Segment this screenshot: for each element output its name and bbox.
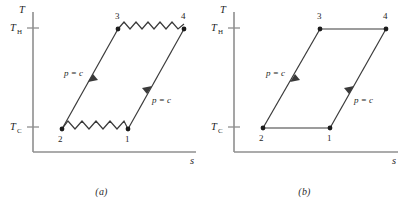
panel-b: T T H T C s 1 2 3 4 [203,0,406,216]
state-point-1-a [126,127,131,132]
y-tick-sub-th-b: H [218,28,223,36]
process-zigzag-2-1-a [62,121,128,129]
y-tick-label-th-b: T [211,22,218,33]
y-axis-label-b: T [220,4,227,15]
state-label-4-b: 4 [383,11,388,21]
state-point-3-b [318,27,323,32]
x-axis-label-b: s [392,155,396,166]
process-line-4-1-a [128,29,184,129]
process-label-2-3-b: p = c [265,68,285,78]
state-label-2-a: 2 [58,134,63,144]
state-label-3-a: 3 [115,11,120,21]
state-point-1-b [328,126,333,131]
state-point-4-a [182,27,187,32]
y-tick-label-th-a: T [10,22,17,33]
process-label-4-1-b: p = c [353,95,373,105]
process-label-4-1-a: p = c [151,95,171,105]
panel-b-plot: T T H T C s 1 2 3 4 [203,0,407,186]
y-axis-label-a: T [19,4,26,15]
process-line-4-1-b [330,29,386,128]
state-label-2-b: 2 [259,133,264,143]
state-label-3-b: 3 [317,11,322,21]
panel-b-caption: (b) [203,186,406,197]
state-point-2-a [60,127,65,132]
state-point-3-a [116,27,121,32]
state-point-2-b [261,126,266,131]
process-line-2-3-b [263,29,320,128]
state-label-1-a: 1 [125,134,130,144]
y-tick-sub-tc-b: C [218,127,223,135]
process-arrow-4-1-b [344,86,354,94]
state-point-4-b [384,27,389,32]
process-label-2-3-a: p = c [63,68,83,78]
panel-a: T T H T C s 1 2 3 4 [0,0,203,216]
y-tick-label-tc-b: T [211,121,218,132]
process-zigzag-3-4-a [118,22,184,29]
y-tick-sub-tc-a: C [17,127,22,135]
state-label-1-b: 1 [327,133,332,143]
x-axis-label-a: s [190,155,194,166]
y-tick-sub-th-a: H [17,28,22,36]
state-label-4-a: 4 [181,11,186,21]
panel-a-caption: (a) [0,186,203,197]
y-tick-label-tc-a: T [10,121,17,132]
process-arrow-2-3-a [88,74,98,82]
figure-container: T T H T C s 1 2 3 4 [0,0,407,216]
panel-a-plot: T T H T C s 1 2 3 4 [0,0,203,186]
